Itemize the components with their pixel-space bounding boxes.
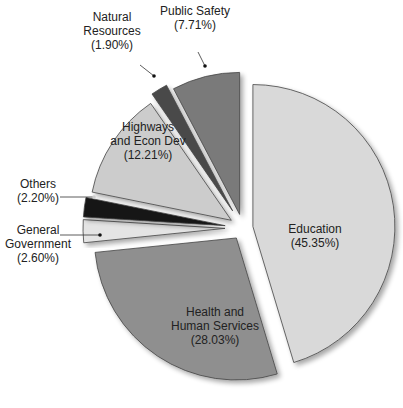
leader-dot <box>152 74 156 78</box>
slice-label: NaturalResources(1.90%) <box>83 10 140 52</box>
leader-dot <box>203 64 207 68</box>
leader-dot <box>92 195 96 199</box>
leader-dot <box>98 233 102 237</box>
slice-label: Others(2.20%) <box>17 177 59 205</box>
slice-label: Education(45.35%) <box>288 222 341 250</box>
slice-label: Public Safety(7.71%) <box>160 4 230 32</box>
pie-chart: Education(45.35%)Health andHuman Service… <box>0 0 403 408</box>
leader-line <box>198 52 205 66</box>
slice-label: GeneralGovernment(2.60%) <box>5 223 72 265</box>
leader-line <box>140 65 154 76</box>
